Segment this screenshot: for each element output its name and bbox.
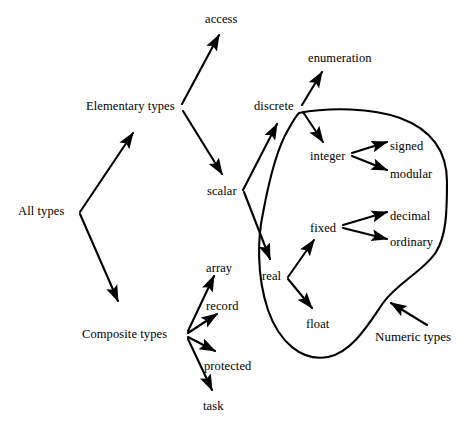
node-composite-types: Composite types [82, 328, 167, 341]
edge-numeric-types-to-numeric-region [391, 303, 427, 325]
edge-real-to-float [288, 279, 312, 308]
edge-discrete-to-integer [303, 112, 323, 142]
node-elementary-types: Elementary types [86, 100, 175, 113]
edge-elementary-types-to-scalar [183, 111, 222, 174]
node-ordinary: ordinary [390, 236, 433, 249]
node-protected: protected [204, 360, 251, 373]
node-fixed: fixed [310, 222, 336, 235]
node-array: array [206, 262, 232, 275]
edge-real-to-fixed [288, 240, 314, 277]
edge-discrete-to-enumeration [302, 72, 322, 105]
node-access: access [205, 13, 238, 26]
node-modular: modular [390, 168, 432, 181]
annotation-numeric-types: Numeric types [375, 330, 451, 343]
node-scalar: scalar [207, 185, 237, 198]
node-record: record [206, 300, 239, 313]
node-signed: signed [390, 140, 423, 153]
edge-integer-to-modular [352, 156, 387, 170]
node-real: real [262, 270, 281, 283]
node-integer: integer [310, 150, 345, 163]
edge-scalar-to-discrete [243, 124, 277, 190]
node-enumeration: enumeration [308, 52, 372, 65]
type-hierarchy-diagram: All types Elementary types Composite typ… [0, 0, 470, 426]
edge-all-types-to-elementary-types [80, 133, 133, 212]
node-decimal: decimal [390, 210, 430, 223]
edge-all-types-to-composite-types [80, 214, 118, 301]
node-float: float [306, 318, 329, 331]
edge-fixed-to-ordinary [343, 228, 387, 239]
node-discrete: discrete [254, 100, 294, 113]
edge-fixed-to-decimal [343, 212, 387, 225]
edge-integer-to-signed [352, 142, 387, 153]
node-all-types: All types [18, 205, 64, 218]
node-task: task [203, 400, 224, 413]
edge-elementary-types-to-access [182, 35, 219, 104]
